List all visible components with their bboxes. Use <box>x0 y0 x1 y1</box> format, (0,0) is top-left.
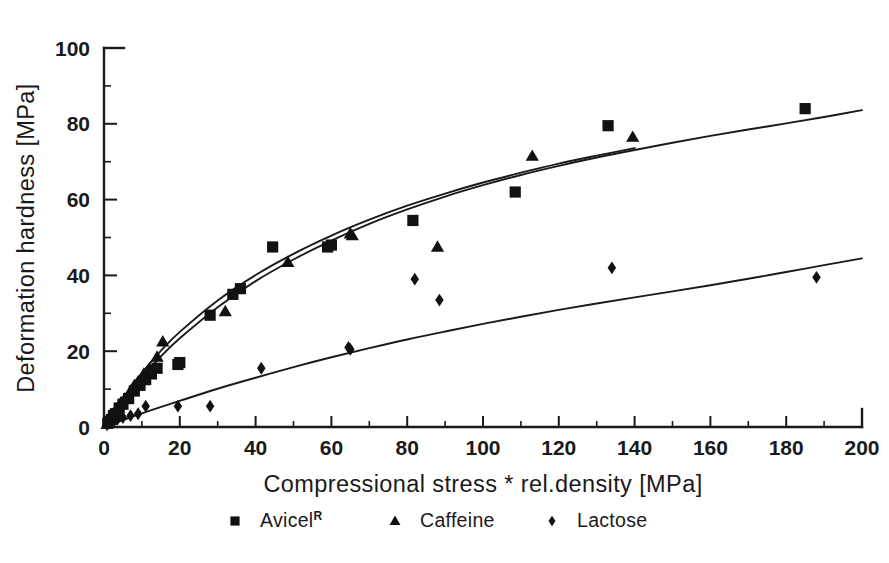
data-point-caffeine <box>156 335 169 346</box>
x-tick-label-140: 140 <box>617 436 652 459</box>
data-point-avicel <box>510 186 521 197</box>
y-axis-tick-labels: 020406080100 <box>55 37 90 439</box>
x-tick-label-0: 0 <box>98 436 110 459</box>
data-point-avicel <box>205 310 216 321</box>
data-point-caffeine <box>526 149 539 160</box>
legend-label-lactose: Lactose <box>577 509 647 531</box>
x-tick-label-20: 20 <box>168 436 191 459</box>
x-tick-label-40: 40 <box>244 436 267 459</box>
data-point-markers <box>100 103 820 431</box>
data-point-lactose <box>257 362 265 375</box>
x-axis-tick-labels: 020406080100120140160180200 <box>98 436 879 459</box>
y-tick-label-100: 100 <box>55 37 90 60</box>
x-tick-label-100: 100 <box>465 436 500 459</box>
data-point-lactose <box>608 261 616 274</box>
axis-lines <box>104 48 862 427</box>
data-point-avicel <box>602 120 613 131</box>
data-point-lactose <box>435 294 443 307</box>
series-lactose <box>103 261 821 431</box>
y-tick-label-0: 0 <box>78 416 90 439</box>
y-tick-label-60: 60 <box>67 188 90 211</box>
data-point-lactose <box>812 271 820 284</box>
legend-label-avicel: AvicelR <box>260 509 322 531</box>
chart-canvas: 020406080100120140160180200 020406080100… <box>0 0 889 563</box>
chart-figure: 020406080100120140160180200 020406080100… <box>0 0 889 563</box>
data-point-avicel <box>235 283 246 294</box>
data-point-caffeine <box>281 256 294 267</box>
x-tick-label-120: 120 <box>541 436 576 459</box>
y-tick-label-40: 40 <box>67 264 90 287</box>
data-point-avicel <box>267 241 278 252</box>
fit-curve-lactose <box>104 258 862 427</box>
data-point-lactose <box>206 400 214 413</box>
x-tick-label-80: 80 <box>396 436 419 459</box>
x-tick-label-200: 200 <box>844 436 879 459</box>
legend-superscript: R <box>313 509 322 523</box>
legend-label-caffeine: Caffeine <box>420 509 495 531</box>
legend-marker-lactose <box>549 516 556 526</box>
data-point-caffeine <box>431 240 444 251</box>
data-point-lactose <box>126 409 134 422</box>
series-caffeine <box>100 130 639 428</box>
data-point-caffeine <box>219 305 232 316</box>
legend-marker-caffeine <box>390 516 401 525</box>
legend-marker-avicel <box>230 516 239 525</box>
data-point-lactose <box>134 407 142 420</box>
x-axis-title: Compressional stress * rel.density [MPa] <box>263 471 702 497</box>
axis-group <box>104 48 862 427</box>
x-tick-label-60: 60 <box>320 436 343 459</box>
y-axis-title: Deformation hardness [MPa] <box>13 83 39 393</box>
data-point-lactose <box>411 273 419 286</box>
x-tick-label-180: 180 <box>769 436 804 459</box>
data-point-avicel <box>326 239 337 250</box>
fit-curves <box>104 110 862 427</box>
chart-legend: AvicelRCaffeineLactose <box>230 509 647 531</box>
x-tick-label-160: 160 <box>693 436 728 459</box>
fit-curve-avicel <box>104 110 862 427</box>
data-point-avicel <box>174 357 185 368</box>
data-point-avicel <box>407 215 418 226</box>
data-point-caffeine <box>626 130 639 141</box>
data-point-avicel <box>800 103 811 114</box>
y-tick-label-80: 80 <box>67 112 90 135</box>
y-tick-label-20: 20 <box>67 340 90 363</box>
series-avicel <box>102 103 811 429</box>
fit-curve-caffeine <box>104 148 635 427</box>
